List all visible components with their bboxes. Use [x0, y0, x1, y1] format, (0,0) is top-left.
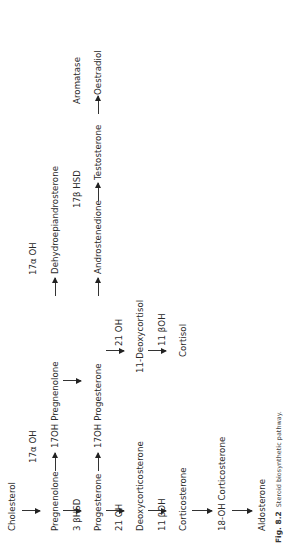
- node-androstenedione: Androstenedione: [93, 200, 103, 274]
- enzyme-21-oh-1: 21 OH: [114, 504, 124, 531]
- node-deoxycorticosterone: Deoxycorticosterone: [135, 441, 145, 531]
- node-17oh-pregnenolone: 17OH Pregnenolone: [50, 361, 60, 448]
- arrow-17ohpreg-dhea: [55, 278, 56, 296]
- arrow-17ohprog-androstenedione: [98, 278, 99, 296]
- node-dhea: Dehydroepiandrosterone: [50, 166, 60, 274]
- node-cortisol: Cortisol: [178, 324, 188, 357]
- node-progesterone: Progesterone: [93, 474, 103, 531]
- enzyme-21-oh-2: 21 OH: [114, 319, 124, 346]
- enzyme-3b-hsd: 3 βHSD: [72, 498, 82, 531]
- arrow-cholesterol-pregnenolone: [22, 510, 40, 511]
- arrow-prog-17ohprog: [98, 453, 99, 471]
- enzyme-aromatase: Aromatase: [72, 57, 82, 104]
- figure-caption: Fig. 8.2Steroid biosynthetic pathway.: [274, 411, 284, 543]
- enzyme-11b-oh-2: 11 βOH: [157, 313, 167, 346]
- node-pregnenolone: Pregnenolone: [50, 471, 60, 531]
- node-oestradiol: Oestradiol: [93, 50, 103, 95]
- node-testosterone: Testosterone: [93, 125, 103, 180]
- enzyme-17b-hsd: 17β HSD: [72, 170, 82, 208]
- node-aldosterone: Aldosterone: [257, 479, 267, 531]
- node-11-deoxycortisol: 11-Deoxycortisol: [135, 300, 145, 373]
- arrow-corticosterone-18oh: [192, 510, 212, 511]
- node-corticosterone: Corticosterone: [178, 467, 188, 531]
- enzyme-11b-oh-1: 11 βOH: [157, 498, 167, 531]
- node-18oh-corticosterone: 18-OH Corticosterone: [217, 437, 227, 531]
- caption-label: Fig. 8.2: [274, 511, 283, 543]
- arrow-11deoxycortisol-cortisol: [148, 350, 166, 351]
- enzyme-17a-oh-2: 17α OH: [28, 242, 38, 275]
- arrow-17ohprog-11deoxycortisol: [106, 350, 124, 351]
- node-cholesterol: Cholesterol: [7, 482, 17, 531]
- arrow-18oh-aldosterone: [232, 510, 252, 511]
- caption-text: Steroid biosynthetic pathway.: [275, 411, 283, 507]
- arrow-17ohpreg-17ohprog: [63, 380, 81, 381]
- enzyme-17a-oh-1: 17α OH: [28, 430, 38, 463]
- steroid-pathway-diagram: Cholesterol 17α OH 17α OH Pregnenolone 1…: [0, 0, 288, 551]
- arrow-preg-17ohpreg: [55, 453, 56, 471]
- node-17oh-progesterone: 17OH Progesterone: [93, 363, 103, 448]
- arrow-androstenedione-testosterone: [98, 183, 99, 201]
- arrow-testosterone-oestradiol: [98, 96, 99, 114]
